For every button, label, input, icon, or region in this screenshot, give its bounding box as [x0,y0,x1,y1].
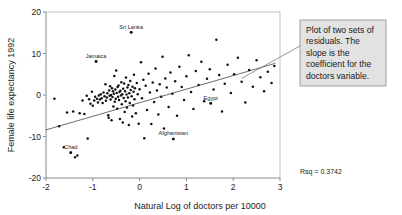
data-point [89,102,92,105]
data-point [121,93,124,96]
data-point [110,94,113,97]
data-point [119,90,122,93]
data-point [176,115,179,118]
data-point [167,106,170,109]
data-point [111,96,114,99]
data-point [226,63,229,66]
data-point [131,85,134,88]
data-point [86,137,89,140]
data-point [190,91,193,94]
data-point [143,137,146,140]
data-point [109,85,112,88]
y-tick-label: 10 [32,49,42,59]
data-point [92,105,95,108]
data-point-highlighted [172,138,175,141]
data-point [150,123,153,126]
data-point [100,97,103,100]
data-point [224,83,227,86]
data-point [132,90,135,93]
data-point [114,88,117,91]
data-point [200,61,203,64]
data-point [209,68,212,71]
regression-line [46,63,275,130]
data-point [137,122,140,125]
data-point [122,97,125,100]
annotation-line: coefficient for the [306,59,372,69]
data-point [72,110,75,113]
data-point [267,71,270,74]
data-point [100,93,103,96]
data-point [85,95,88,98]
data-point [105,100,108,103]
y-tick-label: 0 [36,90,41,100]
data-point [244,101,247,104]
data-point [259,76,262,79]
x-tick-label: 1 [184,182,189,192]
data-point [187,54,190,57]
data-point [252,85,255,88]
data-point [129,102,132,105]
data-point [108,89,111,92]
data-point [154,67,157,70]
annotation-line: Plot of two sets of [306,25,374,35]
data-point [185,75,188,78]
data-point [180,86,183,89]
data-point [270,82,273,85]
data-point [119,118,122,121]
data-point [122,121,125,124]
data-point [147,73,150,76]
data-point [124,100,127,103]
data-point [157,113,160,116]
data-point [192,108,195,111]
data-point [125,76,128,79]
data-point [88,98,91,101]
data-point [66,111,69,114]
data-point [138,88,141,91]
data-point [117,95,120,98]
data-point [127,96,129,99]
data-point [124,90,127,93]
data-point [237,56,240,59]
data-point [263,90,266,93]
annotation-line: doctors variable. [306,71,369,81]
data-point [106,96,109,99]
data-point [103,95,106,98]
data-point [218,74,221,77]
data-point [230,92,233,95]
data-point [136,82,139,85]
data-point [149,91,152,94]
data-point [94,95,97,98]
x-axis-title: Natural Log of doctors per 10000 [134,201,266,211]
data-point [178,66,181,69]
x-tick-label: 0 [137,182,142,192]
data-point [106,92,109,95]
data-point [83,113,86,116]
data-point [142,78,145,81]
data-point [146,109,149,112]
data-point [158,83,161,86]
data-point [91,90,94,93]
data-point [135,112,138,115]
data-point-label: Afghanistan [159,130,189,136]
data-point [74,156,77,159]
x-tick-label: -1 [89,182,97,192]
data-point [221,110,224,113]
data-point [212,88,215,91]
data-point [163,127,166,130]
data-point-label: Jamaica [86,53,108,59]
x-tick-label: 3 [278,182,283,192]
data-point [125,93,128,96]
data-point [110,119,113,122]
chart-svg: 20100-10-20-2-10123Natural Log of doctor… [0,0,402,215]
data-point [136,93,139,96]
data-point [121,103,124,106]
data-point [129,89,132,92]
y-axis-title: Female life expectancy 1992 [6,38,16,153]
data-point [165,86,168,89]
data-point [114,97,117,100]
annotation-line: residuals. The [306,36,360,46]
data-point [117,84,120,87]
data-point [133,98,136,101]
annotation-line: slope is the [306,48,350,58]
data-point [97,101,100,104]
